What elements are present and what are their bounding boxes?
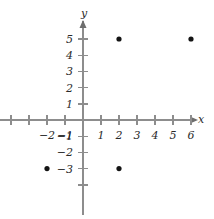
y-tick-label-5: 5 bbox=[66, 33, 73, 46]
x-tick-label--2: −2 bbox=[39, 129, 55, 142]
x-tick-label-5: 5 bbox=[170, 129, 177, 142]
x-tick-label-2: 2 bbox=[115, 129, 123, 142]
y-axis-label: y bbox=[80, 7, 88, 20]
data-point bbox=[116, 36, 121, 41]
coordinate-plane-figure: −2−1123456 −3−2−112345 x y bbox=[0, 0, 214, 219]
x-tick-label-3: 3 bbox=[134, 129, 141, 142]
y-tick-label-3: 3 bbox=[66, 65, 73, 78]
x-tick-label-4: 4 bbox=[151, 129, 159, 142]
data-point bbox=[116, 166, 121, 171]
y-tick-label--1: −1 bbox=[57, 130, 73, 143]
data-point bbox=[44, 166, 49, 171]
x-tick-label-6: 6 bbox=[188, 129, 195, 142]
y-tick-label--2: −2 bbox=[57, 146, 73, 159]
scatter-plot-svg: −2−1123456 −3−2−112345 x y bbox=[0, 0, 214, 219]
y-tick-label-2: 2 bbox=[65, 82, 73, 95]
y-tick-label--3: −3 bbox=[57, 163, 73, 176]
y-axis-tick-labels: −3−2−112345 bbox=[57, 33, 73, 176]
y-tick-label-1: 1 bbox=[66, 98, 73, 111]
y-tick-label-4: 4 bbox=[65, 49, 73, 62]
data-point bbox=[188, 36, 193, 41]
y-axis-arrow-icon bbox=[80, 20, 87, 28]
axes-group bbox=[0, 20, 198, 215]
x-axis-label: x bbox=[198, 113, 205, 126]
x-tick-label-1: 1 bbox=[98, 129, 105, 142]
